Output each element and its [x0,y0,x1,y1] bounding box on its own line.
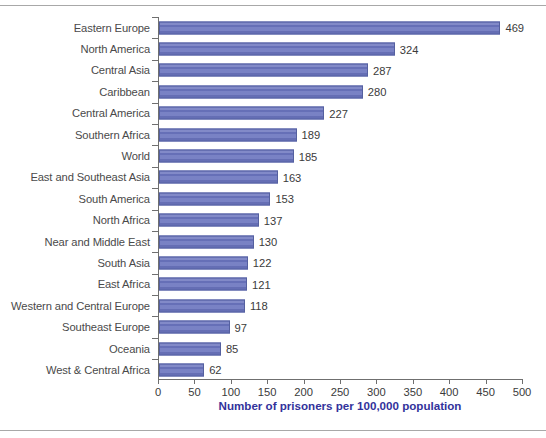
x-tick-mark [449,379,450,384]
category-label: North Africa [0,214,150,226]
top-divider-rule [0,5,546,6]
bar-and-value: 324 [159,43,419,56]
category-tick-mark [152,124,158,125]
bar-and-value: 280 [159,85,387,98]
x-tick-mark [522,379,523,384]
category-label: Southeast Europe [0,321,150,333]
bar [159,128,297,141]
category-tick-mark [152,295,158,296]
bar [159,43,395,56]
x-tick-label: 400 [440,386,459,398]
bar [159,171,278,184]
bar-and-value: 185 [159,150,317,163]
x-tick-mark [231,379,232,384]
bar [159,342,221,355]
bar [159,235,254,248]
x-tick-mark [486,379,487,384]
category-label: South Asia [0,257,150,269]
x-tick-mark [340,379,341,384]
bar [159,321,230,334]
x-axis-ticks: 050100150200250300350400450500 [0,379,546,399]
bar-row: Oceania85 [0,338,546,359]
category-tick-mark [152,60,158,61]
category-tick-mark [152,252,158,253]
category-tick-mark [152,338,158,339]
category-label: Oceania [0,343,150,355]
x-tick-label: 200 [294,386,313,398]
bar-value-label: 122 [253,257,272,269]
bar-value-label: 130 [259,236,278,248]
bar-row: Western and Central Europe118 [0,295,546,316]
bar-row: World185 [0,145,546,166]
x-tick-mark [304,379,305,384]
bar [159,107,324,120]
bar-row: Central America227 [0,103,546,124]
category-label: Central America [0,107,150,119]
category-tick-mark [152,17,158,18]
x-tick-label: 150 [258,386,277,398]
category-label: West & Central Africa [0,364,150,376]
bar-row: North Africa137 [0,210,546,231]
bar-row: East and Southeast Asia163 [0,167,546,188]
bar-row: Caribbean280 [0,81,546,102]
x-tick-label: 50 [188,386,200,398]
category-label: Southern Africa [0,129,150,141]
bar-row: Southern Africa189 [0,124,546,145]
category-label: South America [0,193,150,205]
bar-value-label: 469 [505,22,524,34]
x-tick-label: 350 [403,386,422,398]
bar-value-label: 153 [275,193,294,205]
bar-and-value: 130 [159,235,277,248]
bar-rows-container: Eastern Europe469North America324Central… [0,17,546,381]
x-tick-label: 450 [476,386,495,398]
bar-value-label: 163 [283,171,302,183]
category-label: Eastern Europe [0,22,150,34]
x-tick-mark [158,379,159,384]
category-tick-mark [152,81,158,82]
bar-value-label: 85 [226,343,238,355]
bar-row: Southeast Europe97 [0,316,546,337]
bar [159,278,247,291]
bar-value-label: 62 [209,364,221,376]
bar-value-label: 287 [373,64,392,76]
bar-and-value: 118 [159,299,268,312]
bar-row: South America153 [0,188,546,209]
category-tick-mark [152,274,158,275]
bar [159,256,248,269]
x-tick-mark [267,379,268,384]
bar [159,150,294,163]
bar-and-value: 189 [159,128,320,141]
bar [159,64,368,77]
category-tick-mark [152,359,158,360]
category-tick-mark [152,38,158,39]
bar-and-value: 227 [159,107,348,120]
category-label: World [0,150,150,162]
x-tick-label: 300 [367,386,386,398]
x-tick-label: 500 [513,386,532,398]
bar-row: Near and Middle East130 [0,231,546,252]
x-axis-title: Number of prisoners per 100,000 populati… [158,399,522,412]
x-tick-mark [376,379,377,384]
bar-row: Eastern Europe469 [0,17,546,38]
category-tick-mark [152,210,158,211]
bar-row: South Asia122 [0,252,546,273]
bar-and-value: 163 [159,171,301,184]
category-tick-mark [152,231,158,232]
bar-and-value: 97 [159,321,247,334]
bar-row: North America324 [0,38,546,59]
bar-value-label: 185 [299,150,318,162]
x-tick-mark [413,379,414,384]
bar [159,85,363,98]
bar-and-value: 287 [159,64,392,77]
bar [159,21,500,34]
x-tick-label: 250 [331,386,350,398]
bar [159,299,245,312]
bar-value-label: 189 [302,129,321,141]
category-label: North America [0,43,150,55]
bar-value-label: 324 [400,43,419,55]
category-label: Central Asia [0,64,150,76]
category-tick-mark [152,167,158,168]
bar-value-label: 97 [235,321,247,333]
bar-value-label: 121 [252,278,271,290]
bar [159,214,259,227]
